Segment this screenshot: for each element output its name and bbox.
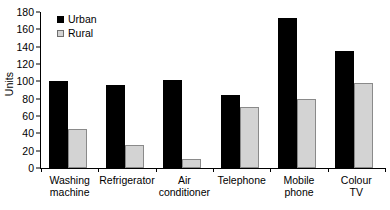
x-axis-category-label-line: Colour — [322, 175, 390, 187]
y-axis-tick-label: 40 — [22, 128, 34, 139]
y-axis-tick-label: 160 — [16, 24, 34, 35]
y-axis-tick-label: 180 — [16, 7, 34, 18]
bar-urban — [221, 95, 240, 168]
y-axis-tick-labels: 020406080100120140160180 — [14, 12, 34, 168]
bar-urban — [106, 85, 125, 168]
chart-legend: Urban Rural — [57, 13, 97, 41]
bar-rural — [125, 145, 144, 168]
bar-rural — [240, 107, 259, 168]
bar-rural — [297, 99, 316, 168]
bar-urban — [163, 80, 182, 168]
y-axis-tick-label: 0 — [28, 163, 34, 174]
x-axis-tick-mark — [385, 168, 386, 172]
legend-label-rural: Rural — [68, 28, 93, 39]
x-axis-category-label-line: TV — [322, 187, 390, 199]
x-axis-tick-mark — [270, 168, 271, 172]
legend-item-rural: Rural — [57, 27, 97, 39]
bar-chart: Units 020406080100120140160180 Washingma… — [0, 0, 390, 210]
bar-rural — [354, 83, 373, 168]
bar-rural — [182, 159, 201, 168]
x-axis-tick-mark — [213, 168, 214, 172]
bar-urban — [278, 18, 297, 168]
x-axis-category-label-line: conditioner — [150, 187, 219, 199]
legend-swatch-rural-icon — [57, 30, 64, 37]
y-axis-tick-label: 140 — [16, 41, 34, 52]
x-axis-category-label-line: machine — [35, 187, 104, 199]
y-axis-tick-label: 120 — [16, 59, 34, 70]
x-axis-tick-mark — [328, 168, 329, 172]
legend-swatch-urban-icon — [57, 16, 64, 23]
y-axis-tick-label: 100 — [16, 76, 34, 87]
y-axis-tick-label: 80 — [22, 93, 34, 104]
bar-urban — [49, 81, 68, 168]
x-axis-tick-mark — [156, 168, 157, 172]
bar-urban — [335, 51, 354, 168]
y-axis-tick-label: 60 — [22, 111, 34, 122]
y-axis-tick-label: 20 — [22, 145, 34, 156]
x-axis-tick-mark — [98, 168, 99, 172]
legend-item-urban: Urban — [57, 13, 97, 25]
x-axis-tick-mark — [41, 168, 42, 172]
bar-rural — [68, 129, 87, 168]
x-axis-category-label: ColourTV — [322, 175, 390, 198]
legend-label-urban: Urban — [68, 14, 97, 25]
